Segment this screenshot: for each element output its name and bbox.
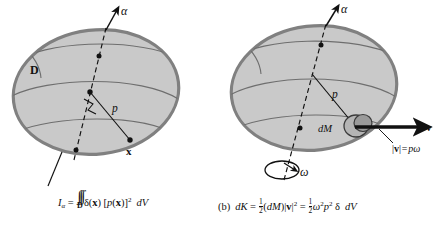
axis-point-upper-b xyxy=(319,43,324,48)
caption-a-density-paren-close: ) xyxy=(98,197,102,208)
caption-b-lhs-k: K xyxy=(241,201,248,212)
caption-b-dm-m: M xyxy=(272,201,281,212)
angular-velocity-arrow-b xyxy=(284,163,295,170)
caption-a-exponent: 2 xyxy=(128,196,132,204)
caption-b-half-2-num: 1 xyxy=(309,198,313,206)
mass-element-label-b: dM xyxy=(318,123,333,134)
caption-a-integral-group: ∫∫∫D xyxy=(77,190,83,210)
panel-b-label: (b) xyxy=(218,201,230,212)
caption-b-dv-v: V xyxy=(350,201,356,212)
point-label-a: x xyxy=(126,145,132,157)
caption-b-p-exp: 2 xyxy=(329,200,333,208)
caption-panel-a: Iα=∫∫∫Dδ(x)[p(x)]2dV xyxy=(58,190,148,210)
panel-b-diagram: α p dM v ω |v| = pω xyxy=(222,0,444,228)
angular-velocity-label-b: ω xyxy=(300,165,308,179)
caption-panel-b: (b)dK=12(dM)|v|2=12ω2p2δdV xyxy=(218,198,357,214)
caption-b-equals-2: = xyxy=(300,201,306,212)
caption-a-lhs-subscript: α xyxy=(62,202,66,210)
region-leader-line-a xyxy=(48,152,62,186)
caption-b-exponent-2: 2 xyxy=(294,200,298,208)
region-label-a: D xyxy=(30,63,39,77)
caption-b-delta: δ xyxy=(335,201,340,212)
caption-a-integral-domain: D xyxy=(77,202,83,210)
axis-foot-point-b xyxy=(298,126,303,131)
mass-element-highlight-b xyxy=(354,115,372,132)
solid-body-a xyxy=(6,20,186,163)
axis-point-upper-a xyxy=(97,54,102,59)
caption-b-half-2-den: 2 xyxy=(309,206,313,215)
axis-label-a: α xyxy=(121,4,128,18)
axis-label-b: α xyxy=(341,2,348,16)
caption-a-equals: = xyxy=(68,197,74,208)
speed-leader-line-b xyxy=(379,129,393,143)
distance-label-a: p xyxy=(111,102,118,115)
rotation-axis-arrow-a xyxy=(106,10,117,30)
speed-relation-label-b: |v| = pω xyxy=(392,143,420,154)
velocity-label-b: v xyxy=(426,121,432,133)
rotation-axis-arrow-b xyxy=(326,8,337,26)
caption-b-half-2: 12 xyxy=(309,198,313,214)
caption-b-equals-1: = xyxy=(250,201,256,212)
caption-a-dv-v: V xyxy=(142,197,148,208)
figure-canvas: α D p x xyxy=(0,0,444,228)
axis-point-lower-a xyxy=(74,148,79,153)
point-x-marker-a xyxy=(127,137,132,142)
distance-label-b: p xyxy=(331,88,338,101)
